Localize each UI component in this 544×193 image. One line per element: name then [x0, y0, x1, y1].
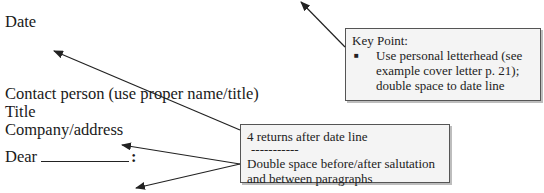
arrow-to-top [301, 2, 345, 47]
arrow-to-before-salutation [122, 145, 240, 164]
arrows-layer [0, 0, 544, 193]
arrow-to-after-salutation [136, 164, 240, 188]
arrow-to-date-gap [54, 51, 240, 130]
